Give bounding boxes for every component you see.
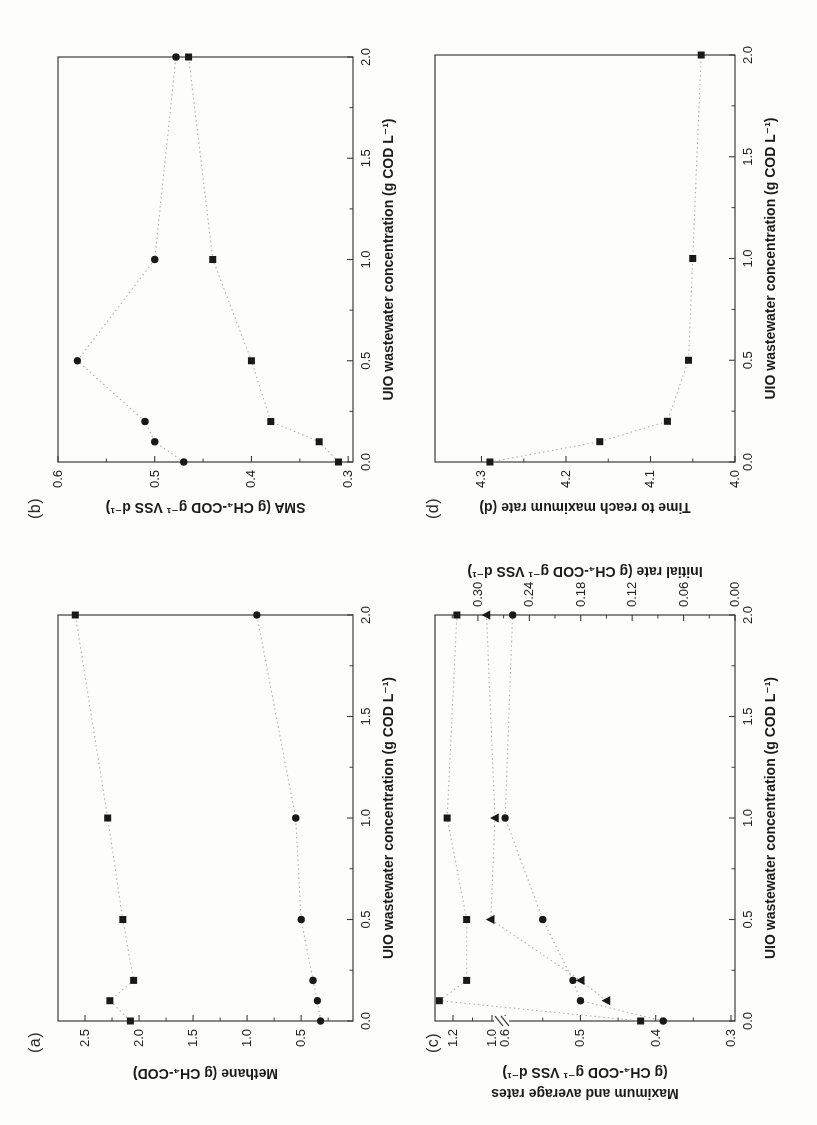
plot-frame-a (58, 615, 353, 1021)
y-axis-title: SMA (g CH₄-COD g⁻¹ VSS d⁻¹) (106, 500, 306, 516)
x-tick-label: 2.0 (358, 606, 373, 624)
data-point-square (248, 357, 255, 364)
plot-frame-c (435, 615, 735, 1021)
y-tick-label: 4.2 (558, 470, 573, 488)
y-tick-label: 1.5 (185, 1029, 200, 1047)
y-axis-title-line: (g CH₄-COD g⁻¹ VSS d⁻¹) (502, 1065, 667, 1081)
panel-c: 0.00.51.01.52.00.30.40.50.61.01.20.000.0… (435, 564, 778, 1102)
data-point-circle (292, 814, 299, 821)
data-point-circle (660, 1017, 667, 1024)
data-point-circle (539, 916, 546, 923)
y-tick-label: 4.0 (727, 470, 742, 488)
data-point-square (453, 612, 460, 619)
data-point-circle (151, 256, 158, 263)
data-point-circle (577, 997, 584, 1004)
data-point-square (596, 438, 603, 445)
x-tick-label: 2.0 (358, 48, 373, 66)
x-tick-label: 0.5 (358, 910, 373, 928)
y-axis-title: Methane (g CH₄-COD) (133, 1066, 278, 1082)
x-axis-title: UIO wastewater concentration (g COD L⁻¹) (762, 118, 778, 400)
x-tick-label: 1.0 (740, 809, 755, 827)
y-tick-label: 0.5 (147, 470, 162, 488)
data-point-square (689, 255, 696, 262)
y-tick-label: 0.5 (293, 1029, 308, 1047)
y-tick-label: 0.5 (572, 1029, 587, 1047)
data-point-circle (180, 458, 187, 465)
data-point-square (316, 438, 323, 445)
panel-letter-d: (d) (424, 498, 442, 519)
y-tick-label: 4.3 (473, 470, 488, 488)
x-axis-a: 0.00.51.01.52.0 (347, 606, 373, 1030)
series-square-d (486, 52, 704, 466)
series-square-a (72, 612, 137, 1025)
x-tick-label: 1.0 (358, 250, 373, 268)
panel-d: 0.00.51.01.52.04.04.14.24.3UIO wastewate… (435, 46, 778, 516)
x-tick-label: 0.0 (358, 453, 373, 471)
x-tick-label: 1.0 (358, 809, 373, 827)
panel-letter-a: (a) (26, 1032, 44, 1053)
plot-frame-b (58, 57, 353, 462)
data-point-circle (501, 814, 508, 821)
y-tick-label: 0.6 (50, 470, 65, 488)
data-point-triangle (576, 976, 585, 985)
y-axis-d: 4.04.14.24.3 (473, 456, 742, 488)
trend-line-circle (77, 57, 183, 462)
data-point-square (104, 815, 111, 822)
data-point-circle (74, 357, 81, 364)
data-point-square (106, 997, 113, 1004)
x-tick-label: 0.0 (740, 1012, 755, 1030)
y2-tick-label: 0.24 (521, 582, 536, 607)
y-tick-label: 1.2 (445, 1029, 460, 1047)
data-point-square (463, 916, 470, 923)
four-panel-chart-svg: 0.00.51.01.52.00.51.01.52.02.5UIO wastew… (0, 0, 817, 1125)
x-axis-d: 0.00.51.01.52.0 (729, 46, 755, 471)
x-tick-label: 1.5 (740, 707, 755, 725)
x-tick-label: 0.0 (740, 453, 755, 471)
series-circle-b (74, 53, 188, 465)
data-point-circle (151, 438, 158, 445)
x-tick-label: 0.5 (740, 351, 755, 369)
trend-line-circle (257, 615, 321, 1021)
series-triangle-c (481, 610, 610, 1005)
figure-rotated-container: (a) (b) (c) (d) 0.00.51.01.52.00.51.01.5… (0, 0, 817, 1125)
x-tick-label: 2.0 (740, 606, 755, 624)
data-point-circle (314, 997, 321, 1004)
data-point-circle (253, 611, 260, 618)
data-point-square (685, 357, 692, 364)
y-tick-label: 4.1 (642, 470, 657, 488)
panel-b: 0.00.51.01.52.00.30.40.50.6UIO wastewate… (50, 48, 396, 516)
y-tick-label: 0.6 (497, 1029, 512, 1047)
x-tick-label: 1.5 (358, 149, 373, 167)
y-tick-label: 0.3 (340, 470, 355, 488)
data-point-square (436, 997, 443, 1004)
scanned-figure-page: (a) (b) (c) (d) 0.00.51.01.52.00.51.01.5… (0, 0, 817, 1125)
y2-tick-label: 0.06 (676, 582, 691, 607)
data-point-square (486, 459, 493, 466)
y-axis-title-line: Maximum and average rates (491, 1086, 679, 1102)
series-circle-a (253, 611, 324, 1024)
panel-a: 0.00.51.01.52.00.51.01.52.02.5UIO wastew… (58, 606, 396, 1082)
y-tick-label: 1.0 (484, 1029, 499, 1047)
x-tick-label: 1.5 (358, 707, 373, 725)
y-axis-b: 0.30.40.50.6 (50, 456, 355, 488)
data-point-circle (141, 418, 148, 425)
data-point-square (127, 1018, 134, 1025)
x-axis-title: UIO wastewater concentration (g COD L⁻¹) (762, 677, 778, 959)
y-tick-label: 2.0 (131, 1029, 146, 1047)
y-tick-label: 2.5 (77, 1029, 92, 1047)
x-tick-label: 1.0 (740, 249, 755, 267)
data-point-square (72, 612, 79, 619)
x-axis-c: 0.00.51.01.52.0 (729, 606, 755, 1030)
y2-tick-label: 0.00 (727, 582, 742, 607)
data-point-circle (569, 977, 576, 984)
data-point-square (463, 977, 470, 984)
y-axis-title: Time to reach maximum rate (d) (479, 500, 690, 516)
panel-letter-c: (c) (424, 1033, 442, 1053)
x-axis-b: 0.00.51.01.52.0 (347, 48, 373, 471)
x-tick-label: 0.0 (358, 1012, 373, 1030)
x-tick-label: 1.5 (740, 148, 755, 166)
y-axis-a: 0.51.01.52.02.5 (77, 1015, 328, 1047)
y-tick-label: 0.3 (723, 1029, 738, 1047)
panel-letter-b: (b) (26, 498, 44, 519)
data-point-square (209, 256, 216, 263)
